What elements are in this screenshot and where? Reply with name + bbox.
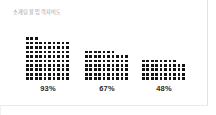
waffle-dot (116, 64, 119, 67)
waffle-dot (48, 51, 51, 54)
waffle-dot (103, 64, 106, 67)
waffle-dot (66, 68, 69, 71)
waffle-dot (116, 73, 119, 76)
waffle-dot (98, 51, 101, 54)
waffle-dot (94, 51, 97, 54)
waffle-dot (89, 73, 92, 76)
waffle-dot (107, 60, 110, 63)
waffle-dot (66, 42, 69, 45)
waffle-dot (142, 77, 145, 80)
waffle-dot (151, 60, 154, 63)
waffle-dot (85, 51, 88, 54)
waffle-dot (48, 68, 51, 71)
waffle-dot (57, 68, 60, 71)
waffle-dot (146, 73, 149, 76)
waffle-dot (48, 64, 51, 67)
waffle-dot (112, 60, 115, 63)
waffle-dot (26, 42, 29, 45)
waffle-dot (169, 73, 172, 76)
waffle-dot (103, 77, 106, 80)
waffle-dot (66, 60, 69, 63)
waffle-dot (85, 60, 88, 63)
waffle-dot (103, 55, 106, 58)
waffle-dot (35, 64, 38, 67)
waffle-dot (94, 60, 97, 63)
waffle-dot (39, 46, 42, 49)
waffle-dot (160, 60, 163, 63)
waffle-dot (35, 37, 38, 40)
waffle-dot (57, 42, 60, 45)
waffle-dot (53, 46, 56, 49)
waffle-dot (112, 77, 115, 80)
waffle-dot (89, 51, 92, 54)
waffle-grid (142, 58, 187, 80)
waffle-dot (35, 60, 38, 63)
waffle-dot (112, 73, 115, 76)
waffle-dot (30, 42, 33, 45)
waffle-dot (112, 64, 115, 67)
waffle-dot (160, 73, 163, 76)
waffle-dot (39, 42, 42, 45)
waffle-dot (26, 55, 29, 58)
waffle-dot (85, 68, 88, 71)
waffle-dot (98, 64, 101, 67)
waffle-dot (53, 60, 56, 63)
waffle-dot (35, 68, 38, 71)
waffle-dot (121, 64, 124, 67)
waffle-dot (57, 60, 60, 63)
waffle-dot (169, 77, 172, 80)
waffle-dot (53, 64, 56, 67)
waffle-dot (164, 77, 167, 80)
waffle-dot (103, 73, 106, 76)
waffle-dot (112, 68, 115, 71)
waffle-group (85, 49, 130, 80)
waffle-dot (39, 64, 42, 67)
waffle-dot (85, 77, 88, 80)
waffle-group (142, 58, 187, 80)
waffle-dot (121, 77, 124, 80)
waffle-dot (103, 51, 106, 54)
waffle-dot (125, 77, 128, 80)
waffle-chart-plot: 93%67%48% (0, 0, 208, 106)
waffle-dot (125, 68, 128, 71)
waffle-dot (48, 55, 51, 58)
waffle-dot (173, 77, 176, 80)
waffle-dot (116, 77, 119, 80)
waffle-dot (66, 46, 69, 49)
waffle-dot (85, 55, 88, 58)
waffle-dot (169, 60, 172, 63)
waffle-group-label: 93% (25, 84, 71, 93)
waffle-dot (30, 46, 33, 49)
waffle-dot (98, 60, 101, 63)
waffle-dot (39, 55, 42, 58)
waffle-dot (57, 73, 60, 76)
waffle-dot (44, 64, 47, 67)
waffle-dot (178, 68, 181, 71)
waffle-dot (125, 55, 128, 58)
waffle-dot (151, 73, 154, 76)
waffle-dot (62, 46, 65, 49)
waffle-dot (53, 68, 56, 71)
waffle-dot (44, 77, 47, 80)
waffle-dot (178, 64, 181, 67)
waffle-dot (94, 68, 97, 71)
waffle-dot (30, 60, 33, 63)
waffle-dot (121, 73, 124, 76)
waffle-dot (125, 60, 128, 63)
waffle-dot (35, 55, 38, 58)
waffle-dot (98, 55, 101, 58)
waffle-dot (94, 73, 97, 76)
waffle-dot (62, 64, 65, 67)
waffle-dot (85, 64, 88, 67)
waffle-dot (39, 73, 42, 76)
waffle-group-label: 67% (84, 84, 130, 93)
waffle-dot (26, 46, 29, 49)
waffle-dot (155, 68, 158, 71)
waffle-dot (164, 68, 167, 71)
waffle-dot (107, 51, 110, 54)
waffle-dot (151, 68, 154, 71)
waffle-dot (35, 46, 38, 49)
waffle-dot (62, 55, 65, 58)
waffle-dot (44, 51, 47, 54)
waffle-dot (164, 64, 167, 67)
